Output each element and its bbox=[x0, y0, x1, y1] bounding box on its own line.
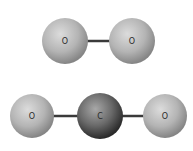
atom-label: C bbox=[97, 112, 103, 121]
oxygen-molecule: O O bbox=[42, 18, 155, 64]
molecule-diagram: O O O C O bbox=[0, 0, 193, 151]
atom-label: O bbox=[129, 37, 135, 46]
carbon-dioxide-molecule: O C O bbox=[10, 93, 187, 139]
atom-label: O bbox=[29, 112, 35, 121]
atom-label: O bbox=[62, 37, 68, 46]
atom-label: O bbox=[162, 112, 168, 121]
